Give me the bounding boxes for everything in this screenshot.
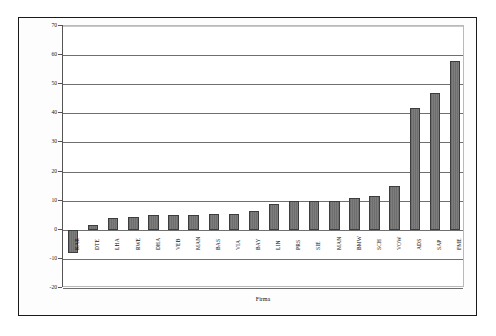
x-tick-label-kar-0: KAR [74,238,80,250]
x-tick-label-sap-18: SAP [436,239,442,250]
bar-fme-19 [450,61,460,230]
x-tick-label-fme-19: FME [456,238,462,250]
y-tick-label: -20 [50,284,57,290]
y-tick-mark [58,171,62,172]
x-tick-label-rwe-3: RWE [135,237,141,249]
y-tick-mark [58,200,62,201]
bar-via-8 [229,214,239,230]
x-tick-label-lha-2: LHA [114,238,120,250]
bar-prs-11 [289,201,299,230]
bar-rwe-3 [128,217,138,230]
bar-bas-7 [209,214,219,230]
y-tick-label: 0 [54,226,57,232]
x-tick-label-bay-9: BAY [255,238,261,250]
y-tick-label: 50 [51,80,57,86]
x-tick-label-bas-7: BAS [215,239,221,250]
x-tick-label-ads-17: ADS [416,238,422,249]
x-tick-label-bmw-14: BMW [356,236,362,250]
y-tick-mark [58,258,62,259]
x-tick-label-sch-15: SCH [376,239,382,250]
y-tick-mark [58,287,62,288]
bar-dha-4 [148,215,158,230]
y-tick-mark [58,83,62,84]
bar-bay-9 [249,211,259,230]
y-tick-label: -10 [50,255,57,261]
y-tick-label: 10 [51,197,57,203]
bars-layer [63,26,463,286]
bar-dte-1 [88,225,98,229]
y-tick-mark [58,229,62,230]
x-tick-label-via-8: VIA [235,240,241,250]
y-tick-mark [58,141,62,142]
bar-lin-10 [269,204,279,230]
gridline--20 [63,288,463,289]
y-tick-label: 60 [51,51,57,57]
x-tick-label-prs-11: PRS [295,240,301,250]
bar-sie-12 [309,201,319,230]
bar-veb-5 [168,215,178,230]
x-tick-label-sie-12: SIE [315,241,321,250]
bar-sch-15 [369,196,379,229]
bar-vow-16 [389,186,399,230]
y-tick-mark [58,54,62,55]
x-tick-label-man-6: MAN [195,236,201,249]
x-tick-label-vow-16: VOW [396,236,402,250]
bar-ads-17 [410,108,420,230]
bar-man-13 [329,201,339,230]
y-tick-label: 20 [51,168,57,174]
y-tick-label: 40 [51,109,57,115]
y-tick-mark [58,25,62,26]
plot-area [62,25,464,287]
x-axis-title: Firma [62,296,464,302]
bar-lha-2 [108,218,118,230]
x-tick-label-dha-4: DHA [155,237,161,249]
x-tick-label-man-13: MAN [336,236,342,249]
y-tick-label: 30 [51,138,57,144]
bar-man-6 [188,215,198,230]
x-tick-label-dte-1: DTE [94,239,100,250]
y-axis: -20-10010203040506070 [62,25,63,287]
y-axis-title: Umsatzwachstum (in %) seit 3 Jahren durc… [24,0,36,42]
chart-page: Umsatzwachstum (in %) seit 3 Jahren durc… [0,0,496,336]
bar-sap-18 [430,93,440,230]
y-tick-label: 70 [51,22,57,28]
x-tick-label-veb-5: VEB [175,238,181,249]
y-tick-mark [58,112,62,113]
bar-bmw-14 [349,198,359,230]
x-tick-label-lin-10: LIN [275,240,281,250]
